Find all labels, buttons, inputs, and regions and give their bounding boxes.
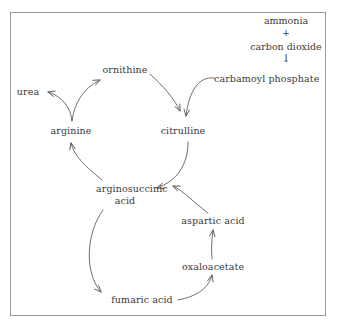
- node-oxaloacetate-label: oxaloacetate: [182, 261, 244, 272]
- node-arginosuccinic-acid: arginosuccinic acid: [96, 183, 154, 206]
- node-oxaloacetate: oxaloacetate: [180, 261, 246, 273]
- node-carbamoyl-phosphate: carbamoyl phosphate: [214, 73, 334, 85]
- urea-cycle-diagram: ammonia + carbon dioxide ↓ carbamoyl pho…: [0, 0, 339, 331]
- node-fumaric-acid: fumaric acid: [108, 294, 176, 306]
- edge-oxaloacetate-aspartic: [212, 230, 213, 259]
- reactants-stack: ammonia + carbon dioxide ↓: [234, 14, 338, 65]
- node-aspartic-acid-label: aspartic acid: [181, 215, 244, 226]
- node-citrulline: citrulline: [158, 125, 208, 137]
- node-citrulline-label: citrulline: [161, 125, 206, 136]
- edge-carbamoyl-phosphate-citrulline: [186, 78, 214, 116]
- edge-arginine-urea: [48, 92, 72, 121]
- edge-citrulline-arginosuccinic: [157, 142, 188, 188]
- reactant-ammonia: ammonia: [234, 14, 338, 27]
- edge-aspartic-arginosuccinic: [173, 186, 208, 213]
- node-carbamoyl-phosphate-label: carbamoyl phosphate: [214, 73, 319, 84]
- node-arginine: arginine: [46, 125, 96, 137]
- plus-symbol: +: [234, 27, 338, 40]
- node-arginosuccinic-acid-label-line-2: acid: [96, 195, 154, 207]
- node-urea-label: urea: [17, 86, 39, 97]
- node-arginosuccinic-acid-label-line-1: arginosuccinic: [96, 183, 154, 195]
- node-arginine-label: arginine: [50, 125, 91, 136]
- down-arrow-icon: ↓: [234, 53, 338, 65]
- edge-ornithine-citrulline: [150, 74, 180, 111]
- node-ornithine-label: ornithine: [102, 64, 147, 75]
- edge-fumaric-oxaloacetate: [178, 275, 212, 300]
- edge-arginosuccinic-arginine: [71, 143, 102, 180]
- node-urea: urea: [14, 86, 42, 98]
- node-aspartic-acid: aspartic acid: [180, 215, 246, 227]
- node-ornithine: ornithine: [100, 64, 150, 76]
- edge-arginine-ornithine: [72, 80, 100, 121]
- edge-arginosuccinic-fumaric: [89, 210, 103, 292]
- node-fumaric-acid-label: fumaric acid: [111, 294, 173, 305]
